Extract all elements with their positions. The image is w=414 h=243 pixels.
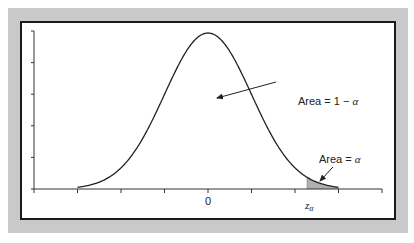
area-tail-arrow — [320, 167, 333, 181]
normal-curve-chart: Area = 1 − α Area = α 0 zα — [0, 0, 414, 243]
area-tail-label: Area = α — [319, 153, 361, 165]
tick-label-z-alpha: zα — [304, 199, 314, 213]
tick-label-zero: 0 — [205, 195, 211, 207]
area-center-label: Area = 1 − α — [298, 95, 358, 107]
normal-density-curve — [78, 33, 339, 187]
